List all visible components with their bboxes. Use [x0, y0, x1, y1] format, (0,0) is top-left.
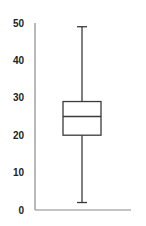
y-tick-label: 50: [13, 18, 25, 29]
y-tick-label: 20: [13, 130, 25, 141]
y-tick-label: 30: [13, 92, 25, 103]
box-plot-chart: 01020304050: [0, 0, 146, 226]
iqr-box: [63, 102, 101, 136]
box-group: [63, 27, 101, 203]
y-tick-labels: 01020304050: [13, 18, 25, 216]
y-tick-label: 10: [13, 167, 25, 178]
y-tick-label: 0: [18, 205, 24, 216]
y-tick-label: 40: [13, 55, 25, 66]
